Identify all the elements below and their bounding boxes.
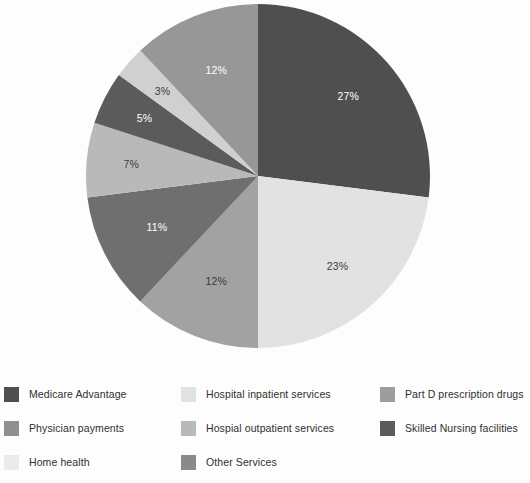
legend-item-label: Physician payments — [29, 422, 124, 434]
legend-color-swatch — [4, 387, 19, 402]
legend-item[interactable]: Hospital inpatient services — [181, 386, 331, 402]
chart-legend: Medicare AdvantageHospital inpatient ser… — [0, 378, 530, 483]
legend-item[interactable]: Medicare Advantage — [4, 386, 127, 402]
pie-slice-label: 3% — [155, 85, 171, 97]
pie-slice-label: 7% — [124, 158, 140, 170]
pie-slice-label: 12% — [205, 64, 227, 76]
pie-slice-label: 23% — [327, 260, 349, 272]
pie-slice-label: 11% — [146, 221, 167, 233]
legend-item-label: Skilled Nursing facilities — [405, 422, 518, 434]
pie-slice-label: 12% — [205, 275, 227, 287]
legend-item-label: Hospital inpatient services — [206, 388, 331, 400]
legend-color-swatch — [181, 455, 196, 470]
legend-item-label: Medicare Advantage — [29, 388, 127, 400]
legend-color-swatch — [380, 387, 395, 402]
legend-item[interactable]: Home health — [4, 454, 90, 470]
legend-item[interactable]: Other Services — [181, 454, 277, 470]
legend-color-swatch — [4, 455, 19, 470]
legend-item-label: Part D prescription drugs — [405, 388, 524, 400]
legend-item-label: Other Services — [206, 456, 277, 468]
legend-color-swatch — [181, 421, 196, 436]
legend-item[interactable]: Part D prescription drugs — [380, 386, 524, 402]
pie-chart-svg: 27%23%12%11%7%5%3%12% — [0, 0, 530, 368]
legend-item[interactable]: Skilled Nursing facilities — [380, 420, 518, 436]
pie-chart-area: 27%23%12%11%7%5%3%12% — [0, 0, 530, 368]
legend-color-swatch — [181, 387, 196, 402]
legend-item-label: Hospial outpatient services — [206, 422, 334, 434]
legend-item[interactable]: Hospial outpatient services — [181, 420, 334, 436]
pie-chart-page: 27%23%12%11%7%5%3%12% Medicare Advantage… — [0, 0, 530, 483]
pie-slice-label: 27% — [337, 90, 359, 102]
pie-slice-label: 5% — [137, 112, 153, 124]
legend-color-swatch — [380, 421, 395, 436]
pie-slice-group — [86, 4, 430, 348]
legend-item[interactable]: Physician payments — [4, 420, 124, 436]
legend-color-swatch — [4, 421, 19, 436]
legend-item-label: Home health — [29, 456, 90, 468]
